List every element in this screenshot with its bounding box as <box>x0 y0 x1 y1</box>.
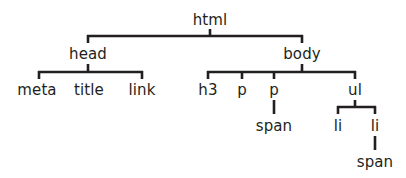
node-span-1: span <box>256 119 292 134</box>
node-span-2: span <box>357 155 393 170</box>
node-li-1: li <box>334 119 343 134</box>
connector-body <box>207 64 356 79</box>
node-h3: h3 <box>198 83 217 98</box>
node-p-2: p <box>269 83 279 98</box>
node-title: title <box>74 83 104 98</box>
node-body: body <box>283 47 321 62</box>
node-li-2: li <box>371 119 380 134</box>
node-p-1: p <box>237 83 247 98</box>
dom-tree-diagram: html head body meta title link h3 p p ul… <box>0 0 406 178</box>
node-head: head <box>69 47 107 62</box>
node-html: html <box>193 13 228 28</box>
node-link: link <box>129 83 156 98</box>
node-meta: meta <box>17 83 56 98</box>
connector-ul <box>337 100 376 114</box>
connector-head <box>38 64 143 79</box>
connector-html <box>87 29 303 43</box>
node-ul: ul <box>348 83 362 98</box>
